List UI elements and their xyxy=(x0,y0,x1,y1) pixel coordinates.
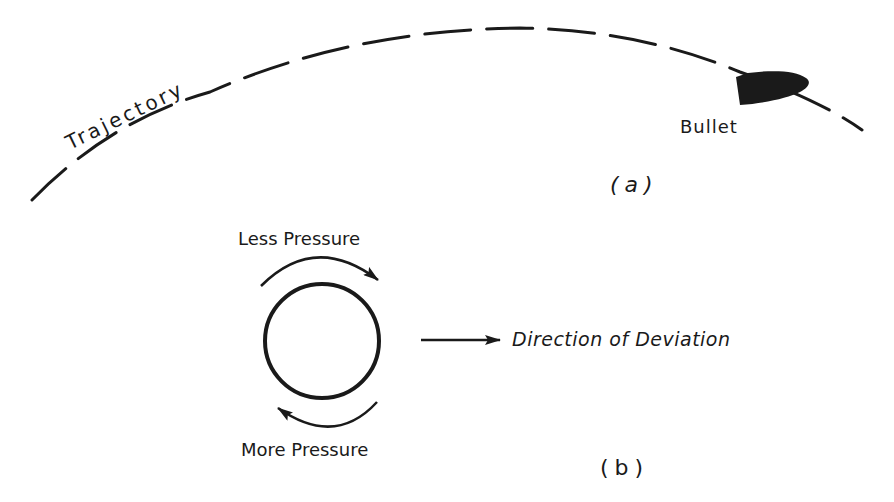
less-pressure-label: Less Pressure xyxy=(238,228,360,249)
panel-a-caption: (a) xyxy=(610,172,659,197)
clockwise-arrow-top xyxy=(261,257,378,286)
trajectory-label: Trajectory xyxy=(61,76,188,154)
trajectory-arc xyxy=(32,28,862,200)
bullet-deviation-diagram: Trajectory Bullet (a) Less Pressure More… xyxy=(0,0,894,502)
more-pressure-label: More Pressure xyxy=(241,439,368,460)
bullet-icon xyxy=(736,71,809,105)
bullet-label: Bullet xyxy=(680,116,738,137)
direction-of-deviation-label: Direction of Deviation xyxy=(512,328,731,350)
panel-b: Less Pressure More Pressure Direction of… xyxy=(238,228,731,480)
panel-a: Trajectory Bullet (a) xyxy=(32,28,862,200)
clockwise-arrow-bottom xyxy=(278,402,377,427)
rotating-cylinder xyxy=(265,284,379,398)
panel-b-caption: (b) xyxy=(600,455,649,480)
